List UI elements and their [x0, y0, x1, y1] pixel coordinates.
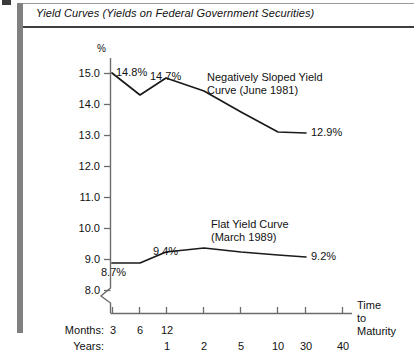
x-tick-label-years-5: 5 [231, 340, 251, 352]
x-tick-label-years-40: 40 [333, 340, 353, 352]
x-tick-label-years-1: 1 [157, 340, 177, 352]
yield-curves-figure: Yield Curves (Yields on Federal Governme… [0, 0, 418, 361]
x-axis-title-line3: Maturity [357, 325, 396, 339]
point-label-12-9: 12.9% [311, 126, 342, 138]
series-line-march-1989 [112, 248, 306, 263]
y-axis-break-symbol [101, 283, 111, 313]
x-axis-title-line2: to [357, 312, 366, 326]
x-row-header-months: Months: [50, 324, 104, 336]
y-tick-label-10: 10.0 [68, 222, 100, 234]
point-label-14-7: 14.7% [150, 70, 181, 82]
y-tick-label-8: 8.0 [68, 284, 100, 296]
x-tick-label-years-2: 2 [194, 340, 214, 352]
annotation-march-1989-line1: Flat Yield Curve [211, 218, 289, 231]
x-tick-label-months-3: 3 [103, 324, 123, 336]
x-tick-marks [113, 307, 343, 314]
y-tick-label-12: 12.0 [68, 160, 100, 172]
x-tick-label-years-10: 10 [268, 340, 288, 352]
chart-plot-area [0, 0, 418, 361]
y-tick-label-14: 14.0 [68, 98, 100, 110]
x-tick-label-months-12: 12 [157, 324, 177, 336]
x-tick-label-years-30: 30 [296, 340, 316, 352]
y-tick-label-11: 11.0 [68, 191, 100, 203]
y-tick-label-13: 13.0 [68, 129, 100, 141]
y-axis-unit-label: % [97, 43, 106, 54]
y-tick-label-15: 15.0 [68, 67, 100, 79]
annotation-june-1981-line1: Negatively Sloped Yield [207, 71, 323, 84]
annotation-june-1981-line2: Curve (June 1981) [207, 84, 298, 97]
point-label-9-2: 9.2% [311, 250, 336, 262]
y-tick-label-9: 9.0 [68, 253, 100, 265]
point-label-8-7: 8.7% [101, 266, 126, 278]
x-axis-title-line1: Time [357, 299, 381, 313]
annotation-march-1989-line2: (March 1989) [211, 231, 276, 244]
point-label-14-8: 14.8% [116, 66, 147, 78]
x-tick-label-months-6: 6 [130, 324, 150, 336]
point-label-9-4: 9.4% [153, 245, 178, 257]
y-tick-marks [104, 74, 111, 291]
x-row-header-years: Years: [50, 340, 104, 352]
